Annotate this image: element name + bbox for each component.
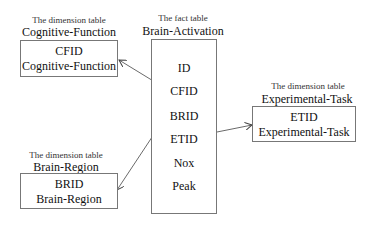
- cf-field-key: CFID: [21, 44, 117, 59]
- fact-table-box: ID CFID BRID ETID Nox Peak: [151, 39, 217, 214]
- br-table-box: BRID Brain-Region: [20, 173, 118, 209]
- et-field-name: Experimental-Task: [253, 125, 355, 140]
- br-field-key: BRID: [21, 177, 117, 192]
- fact-field-peak: Peak: [152, 179, 216, 194]
- br-caption: The dimension table: [16, 150, 116, 160]
- fact-field-cfid: CFID: [152, 84, 216, 99]
- fact-field-etid: ETID: [152, 132, 216, 147]
- fact-field-id: ID: [152, 61, 216, 76]
- cf-caption: The dimension table: [20, 15, 118, 25]
- fact-field-nox: Nox: [152, 156, 216, 171]
- br-field-name: Brain-Region: [21, 192, 117, 207]
- fact-caption: The fact table: [133, 13, 233, 23]
- cf-table-box: CFID Cognitive-Function: [20, 40, 118, 77]
- et-caption: The dimension table: [258, 81, 358, 91]
- fact-field-brid: BRID: [152, 109, 216, 124]
- cf-table-name: Cognitive-Function: [14, 25, 124, 40]
- et-field-key: ETID: [253, 110, 355, 125]
- et-table-box: ETID Experimental-Task: [252, 106, 356, 142]
- et-table-name: Experimental-Task: [252, 92, 362, 107]
- fact-table-name: Brain-Activation: [128, 24, 238, 39]
- cf-field-name: Cognitive-Function: [21, 59, 117, 74]
